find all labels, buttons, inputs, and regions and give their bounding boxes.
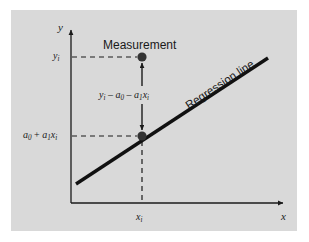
measurement-label: Measurement <box>103 39 176 51</box>
figure-root: y x yi a0 + a1xi xi Measurement yi – a0 … <box>0 0 309 242</box>
fit-x-sub: i <box>55 134 57 142</box>
x-tick-subscript: i <box>140 216 142 224</box>
x-tick-label-xi: xi <box>136 212 142 224</box>
y-tick-label-yi: yi <box>53 51 59 63</box>
residual-x-sub: i <box>147 94 149 102</box>
residual-minus-2: – <box>124 89 134 100</box>
residual-expression-label: yi – a0 – a1xi <box>99 90 149 102</box>
y-axis-label: y <box>58 22 63 33</box>
fit-plus-operator: + <box>32 129 43 140</box>
y-tick-label-fitted: a0 + a1xi <box>23 130 57 142</box>
x-axis-label: x <box>281 211 286 222</box>
fitted-value-point <box>137 131 146 140</box>
measurement-point <box>137 52 146 61</box>
figure-graphics <box>0 0 309 242</box>
y-tick-subscript: i <box>57 55 59 63</box>
residual-minus-1: – <box>105 89 115 100</box>
